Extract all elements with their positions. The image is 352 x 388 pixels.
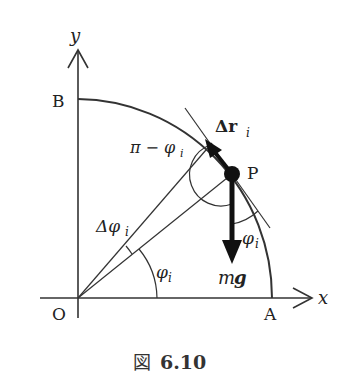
svg-text:i: i bbox=[168, 271, 172, 285]
svg-text:Δφ: Δφ bbox=[95, 216, 120, 236]
svg-text:φ: φ bbox=[156, 262, 168, 282]
quarter-circle-diagram: y x O B A P Δr i π − φ i Δφ i φ i φ i m … bbox=[0, 0, 352, 388]
svg-text:i: i bbox=[246, 126, 250, 140]
svg-text:図: 図 bbox=[133, 352, 151, 373]
phi-origin-label: φ i bbox=[156, 262, 172, 285]
pi-minus-phi-label: π − φ i bbox=[129, 138, 184, 160]
y-axis bbox=[68, 50, 88, 318]
svg-text:π − φ: π − φ bbox=[129, 138, 176, 157]
origin-label: O bbox=[52, 304, 66, 324]
delta-r-label: Δr i bbox=[215, 116, 250, 140]
point-a-label: A bbox=[263, 304, 277, 324]
mg-label: m g bbox=[218, 267, 247, 288]
svg-text:g: g bbox=[234, 267, 247, 288]
point-b-label: B bbox=[52, 91, 65, 111]
svg-text:i: i bbox=[125, 225, 129, 239]
y-axis-label: y bbox=[69, 25, 81, 46]
svg-text:m: m bbox=[218, 267, 235, 288]
svg-text:i: i bbox=[255, 237, 259, 251]
angle-arc-delta-phi bbox=[126, 246, 132, 254]
svg-text:φ: φ bbox=[242, 228, 254, 248]
point-p-dot bbox=[224, 166, 240, 182]
x-axis-label: x bbox=[318, 287, 328, 308]
phi-p-label: φ i bbox=[242, 228, 259, 251]
angle-arc-phi-origin bbox=[139, 249, 157, 298]
point-p-label: P bbox=[247, 163, 258, 183]
svg-text:i: i bbox=[180, 147, 184, 160]
figure-caption: 図 6.10 bbox=[133, 351, 206, 373]
delta-phi-label: Δφ i bbox=[95, 216, 129, 239]
gravity-arrowhead-icon bbox=[222, 240, 242, 264]
svg-text:6.10: 6.10 bbox=[160, 351, 206, 373]
svg-text:Δr: Δr bbox=[215, 116, 238, 136]
